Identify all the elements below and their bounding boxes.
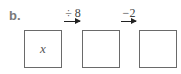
arrow-right-icon — [121, 21, 136, 22]
variable-x: x — [25, 41, 61, 57]
part-label: b. — [9, 8, 21, 23]
output-box[interactable] — [139, 30, 177, 68]
input-box: x — [24, 30, 62, 68]
arrow-right-icon — [64, 21, 80, 22]
middle-box[interactable] — [82, 30, 120, 68]
